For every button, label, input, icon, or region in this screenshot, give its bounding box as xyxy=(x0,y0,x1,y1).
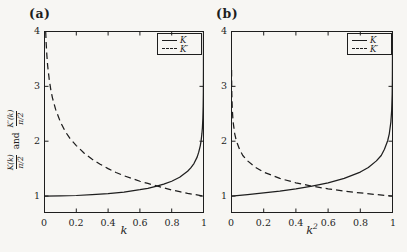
y-tick-label: 1 xyxy=(26,190,40,201)
series-K-prime-curve xyxy=(232,70,393,196)
y-tick-label: 3 xyxy=(213,80,227,91)
x-tick-label: 0.6 xyxy=(128,217,152,228)
y-axis-fraction-1: K(k) π/2 xyxy=(7,154,25,170)
series-K-prime-curve xyxy=(46,32,204,197)
y-tick-label: 4 xyxy=(26,25,40,36)
x-tick-label: 0.4 xyxy=(284,217,308,228)
axes-box xyxy=(45,32,204,213)
y-tick-label: 1 xyxy=(213,190,227,201)
y-axis-label: K(k) π/2 and K′(k) π/2 xyxy=(8,70,24,210)
x-tick-label: 0.2 xyxy=(64,217,88,228)
panel-b-tag: (b) xyxy=(216,6,238,21)
y-tick-label: 2 xyxy=(213,135,227,146)
x-tick-label: 1 xyxy=(192,217,216,228)
x-tick-label: 1 xyxy=(381,217,405,228)
y-tick-label: 3 xyxy=(26,80,40,91)
y-tick-label: 2 xyxy=(26,135,40,146)
x-tick-label: 0.2 xyxy=(251,217,275,228)
x-tick-label: 0 xyxy=(32,217,56,228)
x-tick-label: 0.6 xyxy=(316,217,340,228)
panel-a-tag: (a) xyxy=(29,6,50,21)
figure-elliptic-integrals: (a) (b) K(k) π/2 and K′(k) π/2 k k2 K K′… xyxy=(0,0,407,252)
x-tick-label: 0 xyxy=(219,217,243,228)
x-tick-label: 0.4 xyxy=(96,217,120,228)
x-tick-label: 0.8 xyxy=(160,217,184,228)
axes-box xyxy=(232,32,393,213)
plot-area-a xyxy=(44,31,204,213)
y-tick-label: 4 xyxy=(213,25,227,36)
series-K-curve xyxy=(232,32,393,197)
series-K-curve xyxy=(45,32,204,197)
plot-area-b xyxy=(231,31,393,213)
y-axis-fraction-2: K′(k) π/2 xyxy=(7,110,25,128)
y-axis-label-and: and xyxy=(11,131,21,150)
x-tick-label: 0.8 xyxy=(349,217,373,228)
